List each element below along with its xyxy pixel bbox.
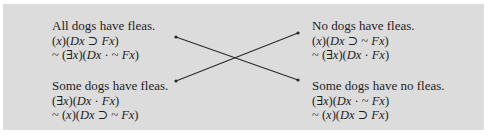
arrowhead-dot-icon (174, 79, 177, 82)
arrowhead-dot-icon (296, 78, 299, 81)
proposition-o-particular-negative: Some dogs have no fleas. (∃x)(Dx · ~ Fx)… (312, 79, 445, 123)
english-statement: No dogs have fleas. (312, 19, 415, 34)
formula-primary: (∃x)(Dx · ~ Fx) (312, 94, 445, 109)
english-statement: Some dogs have no fleas. (312, 79, 445, 94)
proposition-a-universal-affirmative: All dogs have fleas. (x)(Dx ⊃ Fx) ~ (∃x)… (52, 19, 155, 63)
formula-equivalent: ~ (x)(Dx ⊃ ~ Fx) (52, 108, 168, 123)
proposition-e-universal-negative: No dogs have fleas. (x)(Dx ⊃ ~ Fx) ~ (∃x… (312, 19, 415, 63)
formula-primary: (x)(Dx ⊃ Fx) (52, 34, 155, 49)
formula-primary: (∃x)(Dx · Fx) (52, 94, 168, 109)
english-statement: All dogs have fleas. (52, 19, 155, 34)
formula-equivalent: ~ (x)(Dx ⊃ Fx) (312, 108, 445, 123)
arrowhead-dot-icon (296, 31, 299, 34)
formula-primary: (x)(Dx ⊃ ~ Fx) (312, 34, 415, 49)
formula-equivalent: ~ (∃x)(Dx · ~ Fx) (52, 48, 155, 63)
arrowhead-dot-icon (174, 35, 177, 38)
english-statement: Some dogs have fleas. (52, 79, 168, 94)
proposition-i-particular-affirmative: Some dogs have fleas. (∃x)(Dx · Fx) ~ (x… (52, 79, 168, 123)
formula-equivalent: ~ (∃x)(Dx · Fx) (312, 48, 415, 63)
